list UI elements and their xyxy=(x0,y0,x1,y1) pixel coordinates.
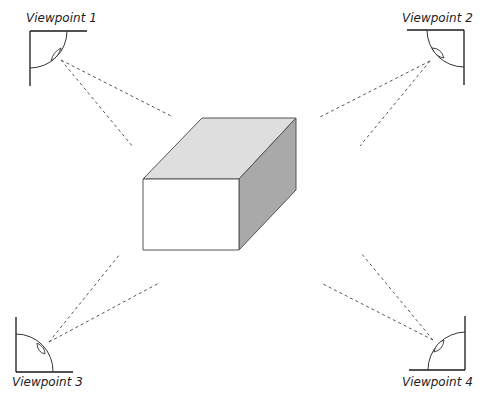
camera-corner-icon xyxy=(16,317,73,372)
sight-line xyxy=(360,61,430,146)
cube xyxy=(143,118,296,250)
sight-line xyxy=(361,253,433,340)
viewpoint-3: Viewpoint 3 xyxy=(12,254,159,389)
camera-corner-icon xyxy=(30,31,87,86)
sight-line xyxy=(320,61,430,117)
viewpoint-2: Viewpoint 2 xyxy=(320,11,473,146)
viewpoint-1: Viewpoint 1 xyxy=(26,11,173,147)
sight-line xyxy=(61,60,133,147)
viewpoint-2-label: Viewpoint 2 xyxy=(402,11,473,25)
viewpoint-4: Viewpoint 4 xyxy=(321,253,473,389)
viewpoint-4-label: Viewpoint 4 xyxy=(402,375,473,389)
sight-line xyxy=(321,283,433,340)
viewpoint-3-label: Viewpoint 3 xyxy=(12,375,83,389)
camera-corner-icon xyxy=(407,30,464,85)
cube-front-face xyxy=(143,179,239,250)
sight-line xyxy=(49,283,159,342)
sight-line xyxy=(49,254,120,342)
sight-line xyxy=(61,60,173,117)
viewpoint-1-label: Viewpoint 1 xyxy=(26,11,97,25)
viewpoint-diagram: Viewpoint 1 Viewpoint 2 Viewpoint 3 xyxy=(0,0,482,401)
camera-corner-icon xyxy=(409,316,465,370)
